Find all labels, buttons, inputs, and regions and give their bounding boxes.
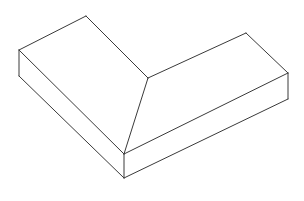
isometric-block-drawing [0,0,304,201]
figure-canvas: Isometric L-Shaped Chamfered Block [0,0,304,201]
face-group [19,16,288,178]
